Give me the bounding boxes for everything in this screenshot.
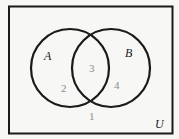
- universe-label: U: [155, 117, 165, 131]
- region-a-and-b: 3: [89, 62, 95, 74]
- set-b-label: B: [125, 46, 133, 60]
- region-b-only: 4: [114, 79, 120, 91]
- venn-diagram: A B U 3 2 4 1: [0, 0, 179, 139]
- region-outside: 1: [89, 110, 95, 122]
- region-a-only: 2: [61, 82, 67, 94]
- set-a-label: A: [43, 49, 52, 63]
